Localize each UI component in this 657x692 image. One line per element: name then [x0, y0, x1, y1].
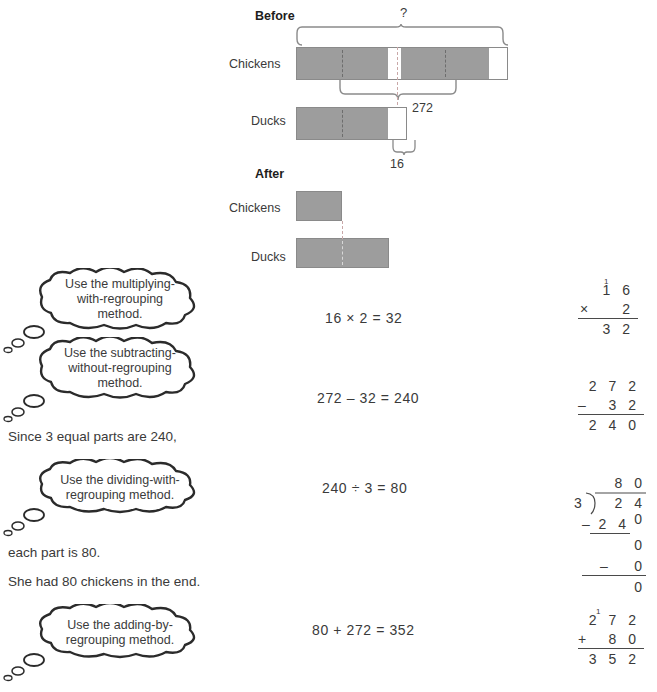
bar-divider: [445, 50, 446, 77]
calculation-subtraction: 2 7 2 – 3 2 2 4 0: [578, 376, 644, 434]
calculation-multiplication: 1 1 6 × 2 3 2: [578, 280, 638, 338]
division-step1-remainder: 0: [596, 537, 646, 553]
after-alignment-guide: [342, 221, 343, 239]
bubble-line-2: regrouping method.: [28, 633, 212, 648]
bubble-line-1: Use the multiplying-: [28, 277, 212, 292]
after-heading: After: [255, 167, 284, 181]
before-chickens-label: Chickens: [229, 57, 280, 71]
total-272-brace: [339, 80, 464, 102]
multiply-operator: ×: [580, 301, 588, 317]
difference: 2 4 0: [589, 417, 640, 433]
equation-multiply: 16 × 2 = 32: [325, 310, 402, 326]
unknown-total-brace: [296, 24, 510, 46]
remainder-16-value: 16: [390, 157, 404, 171]
subtract-operator: –: [578, 397, 586, 413]
before-ducks-bar: [296, 107, 407, 140]
before-heading: Before: [255, 9, 295, 23]
bubble-line-3: method.: [28, 307, 212, 322]
add-operator: +: [578, 631, 586, 647]
narrative-conclusion: She had 80 chickens in the end.: [8, 574, 200, 589]
bar-segment: [297, 192, 341, 220]
equation-divide: 240 ÷ 3 = 80: [322, 480, 407, 496]
unknown-marker: ?: [400, 5, 407, 20]
bubble-line-2: regrouping method.: [28, 488, 212, 503]
carry-digit: 1: [596, 607, 600, 616]
addend-two: 8 0: [609, 631, 640, 647]
equation-add: 80 + 272 = 352: [312, 622, 415, 638]
thought-bubble-dividing: Use the dividing-with- regrouping method…: [28, 459, 212, 517]
after-ducks-bar: [296, 238, 389, 268]
equation-subtract: 272 – 32 = 240: [317, 390, 419, 406]
before-chickens-bar: [296, 47, 508, 80]
bar-divider: [342, 110, 343, 137]
bubble-line-1: Use the adding-by-: [28, 618, 212, 633]
thought-bubble-adding: Use the adding-by- regrouping method.: [28, 604, 212, 662]
sum: 3 5 2: [589, 651, 640, 667]
division-step1-operator: –: [582, 516, 590, 532]
carry-digit: 1: [604, 277, 608, 286]
product: 3 2: [603, 321, 634, 337]
narrative-each-part: each part is 80.: [8, 545, 100, 560]
bubble-line-2: with-regrouping: [28, 292, 212, 307]
calculation-addition: 1 2 7 2 + 8 0 3 5 2: [578, 610, 644, 668]
remainder-16-brace: [392, 140, 416, 156]
after-chickens-bar: [296, 191, 342, 221]
bubble-line-3: method.: [28, 376, 212, 391]
total-272-value: 272: [412, 101, 433, 115]
division-final-remainder: 0: [596, 579, 646, 595]
after-ducks-label: Ducks: [251, 250, 286, 264]
bubble-line-1: Use the dividing-with-: [28, 473, 212, 488]
divisor: 3: [574, 495, 582, 511]
division-step1-value: 2 4: [590, 516, 630, 534]
bar-divider: [342, 50, 343, 77]
quotient: 8 0: [596, 475, 646, 491]
bubble-line-1: Use the subtracting-: [28, 346, 212, 361]
bubble-line-2: without-regrouping: [28, 361, 212, 376]
multiplier: 2: [622, 301, 634, 317]
narrative-since: Since 3 equal parts are 240,: [8, 429, 177, 444]
bubble-tail-adding: [2, 652, 50, 682]
bar-divider: [342, 241, 343, 265]
after-chickens-label: Chickens: [229, 201, 280, 215]
thought-bubble-multiplying: Use the multiplying- with-regrouping met…: [28, 268, 212, 334]
thought-bubble-subtracting: Use the subtracting- without-regrouping …: [28, 337, 212, 403]
before-ducks-label: Ducks: [251, 114, 286, 128]
minuend: 2 7 2: [589, 378, 640, 394]
division-step2-value: 0: [582, 558, 646, 576]
bubble-tail-dividing: [2, 507, 50, 537]
bubble-tail-subtracting: [2, 393, 50, 423]
subtrahend: 3 2: [609, 397, 640, 413]
